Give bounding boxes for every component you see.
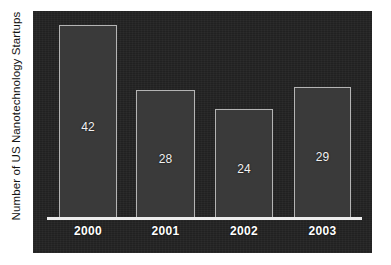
x-tick-label-2000: 2000 [59, 224, 117, 238]
bar-value-2003: 29 [295, 150, 350, 164]
bar-chart-figure: Number of US Nanotechnology Startups 42 … [0, 0, 391, 265]
bar-2003: 29 [294, 87, 351, 218]
chart-plot-panel: 42 28 24 29 2000 2001 2002 2003 [33, 11, 372, 253]
bar-value-2002: 24 [216, 162, 272, 176]
bar-2001: 28 [136, 90, 195, 218]
x-tick-label-2002: 2002 [215, 224, 273, 238]
bar-2002: 24 [215, 109, 273, 218]
y-axis-label-text: Number of US Nanotechnology Startups [11, 12, 23, 221]
x-tick-label-2003: 2003 [294, 224, 351, 238]
y-axis-label: Number of US Nanotechnology Startups [0, 0, 33, 232]
bar-value-2000: 42 [60, 120, 116, 134]
bar-value-2001: 28 [137, 152, 194, 166]
bar-2000: 42 [59, 25, 117, 218]
plot-area: 42 28 24 29 2000 2001 2002 2003 [33, 11, 372, 253]
x-tick-label-2001: 2001 [136, 224, 195, 238]
x-axis-line [47, 217, 362, 220]
